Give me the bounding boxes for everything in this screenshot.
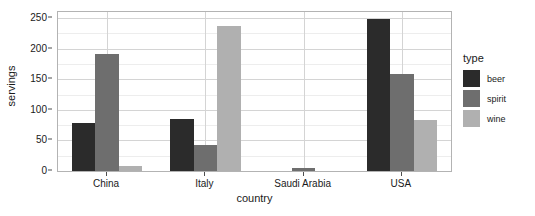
y-axis-title-text: servings [5,66,17,107]
x-tick-mark [401,172,402,176]
y-tick-label: 150 [30,73,47,84]
y-tick-mark [48,47,52,48]
x-tick-label-saudi-arabia: Saudi Arabia [274,178,331,189]
x-tick-mark [303,172,304,176]
y-tick-label: 0 [41,165,47,176]
x-axis-title: country [57,192,452,204]
x-tick-label-china: China [93,178,119,189]
y-tick-mark [48,17,52,18]
y-tick-mark [48,108,52,109]
bar-china-beer [72,123,96,171]
legend-label-wine: wine [487,114,506,124]
plot-panel [57,11,452,172]
legend: type beerspiritwine [463,52,533,130]
bar-china-wine [119,166,143,171]
bar-usa-beer [367,19,391,171]
bar-usa-wine [414,120,438,171]
y-tick-label: 100 [30,103,47,114]
legend-items: beerspiritwine [463,70,533,127]
bar-italy-spirit [194,145,218,171]
bar-group-italy [170,12,241,171]
bar-italy-beer [170,119,194,171]
y-axis-ticks: 050100150200250 [18,0,52,180]
legend-label-beer: beer [487,74,505,84]
y-tick-mark [48,170,52,171]
legend-item-beer[interactable]: beer [463,70,533,87]
bar-saudi-arabia-spirit [292,168,316,171]
x-tick-mark [204,172,205,176]
x-tick-mark [106,172,107,176]
y-tick-mark [48,139,52,140]
legend-swatch-spirit [463,90,480,107]
legend-swatch-wine [463,110,480,127]
legend-title: type [463,52,533,64]
bar-china-spirit [95,54,119,171]
x-tick-label-usa: USA [391,178,412,189]
y-tick-label: 200 [30,42,47,53]
legend-item-spirit[interactable]: spirit [463,90,533,107]
y-tick-label: 50 [36,134,47,145]
legend-label-spirit: spirit [487,94,506,104]
legend-item-wine[interactable]: wine [463,110,533,127]
y-tick-label: 250 [30,12,47,23]
bar-italy-wine [217,26,241,171]
bar-chart: servings 050100150200250 ChinaItalySaudi… [0,0,535,216]
bar-usa-spirit [390,74,414,171]
bar-group-saudi-arabia [268,12,339,171]
bar-group-china [72,12,143,171]
y-tick-mark [48,78,52,79]
legend-swatch-beer [463,70,480,87]
bar-group-usa [367,12,438,171]
x-tick-label-italy: Italy [195,178,213,189]
